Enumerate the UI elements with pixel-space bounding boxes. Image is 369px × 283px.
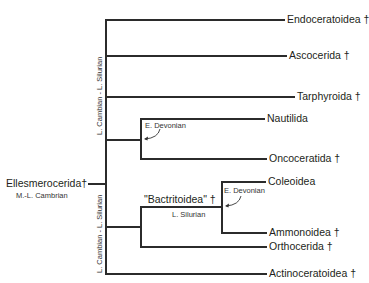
root-taxon-name: Ellesmerocerida [6,177,81,189]
taxon-coleoidea: Coleoidea [268,175,315,187]
lower-stem-age: L. Cambian - L. Silurian [95,195,104,273]
branch-bactritoidea [140,206,222,208]
taxon-nautilida: Nautilida [267,112,308,124]
root-age-label: M.-L. Cambrian [16,191,68,200]
branch-coleoidea [221,181,266,183]
branch-oncoceratida [140,158,267,160]
branch-bactritoid-node [105,226,141,228]
bactritoidea-label: "Bactritoidea" † [144,193,216,205]
branch-ammonoidea [221,232,267,234]
branch-nautilida [140,118,265,120]
taxon-oncoceratida: Oncoceratida † [269,152,340,164]
branch-endoceratoidea [105,19,285,21]
coleoid-split-arrow-icon [221,195,246,211]
branch-ascocerida [105,55,287,57]
bactritoid-stem-age: L. Silurian [172,210,205,219]
taxon-actinoceratoidea: Actinoceratoidea † [269,267,356,279]
coleoid-split-age: E. Devonian [224,186,265,195]
taxon-endoceratoidea: Endoceratoidea † [287,13,369,25]
branch-tarphyroida [105,96,295,98]
taxon-ascocerida: Ascocerida † [289,49,350,61]
taxon-tarphyroida: Tarphyroida † [297,90,361,102]
extinct-dagger: † [81,177,87,189]
main-spine [105,19,107,274]
nautilid-split-arrow-icon [140,128,165,144]
branch-nautilid-node [105,139,141,141]
root-taxon-label: Ellesmerocerida† [6,177,87,189]
taxon-orthocerida: Orthocerida † [269,240,333,252]
taxon-ammonoidea: Ammonoidea † [269,226,340,238]
branch-orthocerida [140,246,267,248]
root-stem [88,183,106,185]
bactritoid-node-vertical [140,206,142,247]
branch-actinoceratoidea [105,273,267,275]
upper-stem-age: L. Cambian - L. Silurian [95,57,104,135]
